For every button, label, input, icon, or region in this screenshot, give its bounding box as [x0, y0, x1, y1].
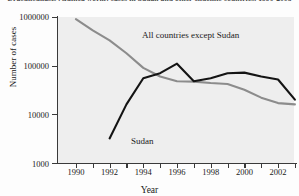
- chart-figure: Dracunculiasis (Guinea worm) cases in Su…: [0, 0, 299, 196]
- x-tick-label: 2000: [227, 167, 261, 177]
- x-tick-label: 1998: [194, 167, 228, 177]
- x-tick-label: 1990: [59, 167, 93, 177]
- y-tick-label: 1000000: [0, 12, 49, 22]
- y-tick-mark: [52, 114, 58, 115]
- x-axis-title: Year: [0, 185, 299, 195]
- y-tick-mark: [52, 66, 58, 67]
- y-tick-label: 1000: [0, 159, 49, 169]
- x-tick-label: 1994: [126, 167, 160, 177]
- annotation-sudan: Sudan: [131, 136, 154, 146]
- y-tick-mark: [52, 17, 58, 18]
- y-tick-mark: [52, 163, 58, 164]
- y-tick-label: 10000: [0, 110, 49, 120]
- annotation-all-countries: All countries except Sudan: [142, 30, 239, 40]
- chart-title: Dracunculiasis (Guinea worm) cases in Su…: [0, 0, 299, 1]
- x-tick-label: 1992: [93, 167, 127, 177]
- y-tick-label: 100000: [0, 61, 49, 71]
- y-axis-line: [57, 16, 58, 164]
- x-tick-label: 1996: [160, 167, 194, 177]
- x-tick-label: 2002: [261, 167, 295, 177]
